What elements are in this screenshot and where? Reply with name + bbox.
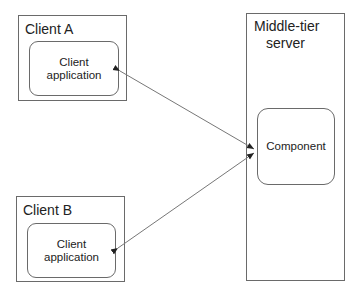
connection-arrows (0, 0, 360, 296)
arrow-client-a-component (120, 71, 254, 149)
arrow-client-b-component (118, 153, 254, 248)
